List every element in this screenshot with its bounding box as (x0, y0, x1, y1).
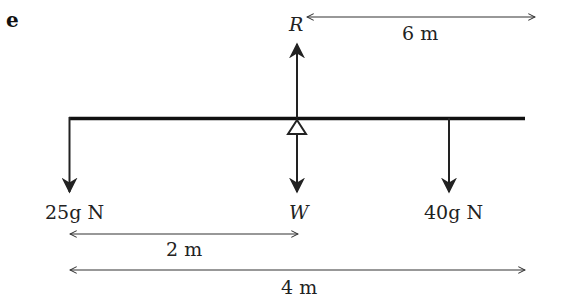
part-label: e (6, 10, 19, 30)
beam-diagram (0, 0, 562, 301)
reaction-label: R (289, 15, 303, 34)
weight-label: W (289, 203, 309, 222)
dimension-4m-label: 4 m (281, 278, 317, 297)
left-load-label: 25g N (45, 203, 104, 222)
right-load-label: 40g N (424, 203, 483, 222)
support-pivot (288, 120, 306, 134)
dimension-6m-label: 6 m (402, 24, 438, 43)
dimension-2m-label: 2 m (166, 240, 202, 259)
